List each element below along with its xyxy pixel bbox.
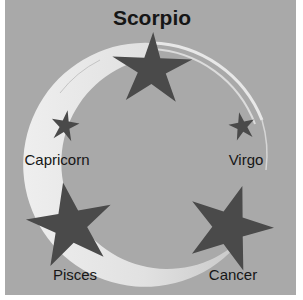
label-pisces: Pisces	[53, 266, 97, 283]
label-scorpio: Scorpio	[113, 6, 191, 30]
label-virgo: Virgo	[229, 151, 264, 168]
label-capricorn: Capricorn	[24, 151, 89, 168]
star-icon	[226, 110, 257, 142]
label-cancer: Cancer	[209, 266, 257, 283]
diagram-graphic	[0, 0, 303, 300]
star-icon	[177, 173, 284, 276]
diagram-canvas: Scorpio Capricorn Virgo Pisces Cancer	[0, 0, 303, 300]
